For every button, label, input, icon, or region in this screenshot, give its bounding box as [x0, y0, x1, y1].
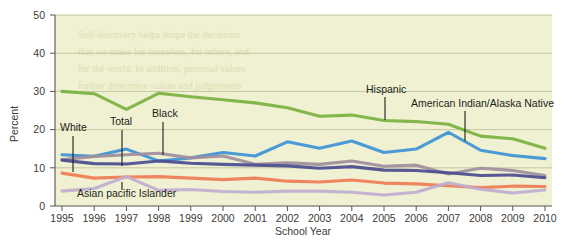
series-annotation-label: American Indian/Alaska Native: [411, 97, 554, 109]
x-axis-tick-label: 2004: [340, 212, 364, 224]
x-axis-tick-label: 1996: [83, 212, 107, 224]
series-annotation-label: Asian pacific Islander: [77, 187, 177, 199]
x-axis-tick-label: 1999: [179, 212, 203, 224]
bleed-through-line: further determine values and judgements: [78, 80, 241, 91]
x-axis-tick-label: 1998: [147, 212, 171, 224]
y-axis-tick-label: 50: [33, 9, 45, 21]
y-axis-tick-label: 30: [33, 85, 45, 97]
y-axis-tick-label: 20: [33, 123, 45, 135]
x-axis-tick-label: 2010: [533, 212, 557, 224]
series-annotation-label: Total: [110, 115, 132, 127]
x-axis-tick-labels: 1995199619971998199920002001200220032004…: [50, 212, 557, 224]
x-axis-tick-label: 2008: [469, 212, 493, 224]
chart-figure: Self-discovery helps shape the decisions…: [0, 0, 575, 241]
x-axis-title: School Year: [275, 225, 332, 237]
status-dropout-rate-chart: Self-discovery helps shape the decisions…: [0, 0, 575, 241]
x-axis-tick-label: 1995: [50, 212, 74, 224]
bleed-through-line: Self-discovery helps shape the decisions: [78, 29, 240, 40]
y-axis-tick-label: 40: [33, 47, 45, 59]
series-annotation-label: Black: [152, 107, 178, 119]
y-axis-tick-labels: 01020304050: [33, 9, 55, 212]
x-axis-tick-label: 2007: [437, 212, 461, 224]
x-axis-tick-label: 2002: [276, 212, 300, 224]
x-axis-ticks: [62, 206, 545, 211]
x-axis-tick-label: 2000: [211, 212, 235, 224]
y-axis-tick-label: 0: [39, 200, 45, 212]
bleed-through-line: that we make for ourselves, for others, …: [78, 46, 249, 57]
y-axis-tick-label: 10: [33, 162, 45, 174]
y-axis-title: Percent: [8, 106, 20, 142]
x-axis-tick-label: 2005: [372, 212, 396, 224]
x-axis-tick-label: 2006: [405, 212, 429, 224]
x-axis-tick-label: 2001: [244, 212, 268, 224]
x-axis-tick-label: 1997: [115, 212, 139, 224]
x-axis-tick-label: 2003: [308, 212, 332, 224]
x-axis-tick-label: 2009: [501, 212, 525, 224]
series-annotation-label: Hispanic: [366, 83, 406, 95]
bleed-through-line: for the world. In addition, personal val…: [78, 63, 246, 74]
series-annotation-label: White: [60, 121, 87, 133]
